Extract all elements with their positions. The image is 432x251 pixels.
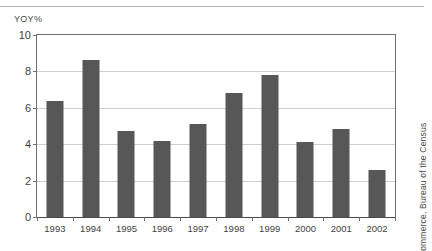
bar	[297, 142, 314, 217]
bar	[333, 129, 350, 217]
bar-slot: 2002	[359, 35, 395, 217]
bar	[46, 101, 63, 217]
y-axis-tick-label: 4	[25, 139, 31, 150]
x-axis-tick	[323, 217, 324, 221]
bar-slot: 1993	[37, 35, 73, 217]
x-axis-tick-label: 2001	[331, 224, 352, 234]
x-axis-tick	[37, 217, 38, 221]
x-axis-tick-label: 1993	[44, 224, 65, 234]
y-axis-tick-label: 2	[25, 175, 31, 186]
x-axis-tick	[288, 217, 289, 221]
x-axis-tick-label: 1996	[152, 224, 173, 234]
bar-slot: 2000	[288, 35, 324, 217]
bar	[369, 170, 386, 217]
source-note-text: Source: U.S. Department of Commerce, Bur…	[418, 123, 428, 251]
bar-slot: 1994	[73, 35, 109, 217]
bar-slot: 1998	[216, 35, 252, 217]
x-axis-tick	[395, 217, 396, 221]
bar-slot: 2001	[323, 35, 359, 217]
bar	[190, 124, 207, 217]
plot-area: 0246810 19931994199519961997199819992000…	[36, 34, 396, 218]
y-axis-tick-label: 6	[25, 102, 31, 113]
x-axis-tick-label: 2000	[295, 224, 316, 234]
y-axis-tick-label: 0	[25, 212, 31, 223]
x-axis-tick	[252, 217, 253, 221]
x-axis-tick	[216, 217, 217, 221]
x-axis-tick-label: 1997	[188, 224, 209, 234]
x-axis-tick	[73, 217, 74, 221]
top-divider-rule	[0, 6, 424, 7]
bar	[82, 60, 99, 217]
bar	[261, 75, 278, 217]
source-note: Source: U.S. Department of Commerce, Bur…	[416, 0, 430, 251]
x-axis-tick-label: 1999	[259, 224, 280, 234]
bar-series: 1993199419951996199719981999200020012002	[37, 35, 395, 217]
x-axis-tick-label: 1994	[80, 224, 101, 234]
bar-slot: 1997	[180, 35, 216, 217]
bar-slot: 1999	[252, 35, 288, 217]
bar-slot: 1995	[109, 35, 145, 217]
x-axis-tick	[144, 217, 145, 221]
x-axis-tick-label: 1998	[223, 224, 244, 234]
bar	[118, 131, 135, 217]
bar	[154, 141, 171, 217]
y-axis-title: YOY%	[14, 14, 42, 24]
y-axis-tick-label: 10	[19, 30, 31, 41]
bar	[225, 93, 242, 217]
y-axis-tick-label: 8	[25, 66, 31, 77]
x-axis-tick-label: 1995	[116, 224, 137, 234]
chart-figure: YOY% 0246810 199319941995199619971998199…	[0, 0, 432, 251]
x-axis-tick	[359, 217, 360, 221]
x-axis-tick	[109, 217, 110, 221]
bar-slot: 1996	[144, 35, 180, 217]
x-axis-tick	[180, 217, 181, 221]
x-axis-tick-label: 2002	[367, 224, 388, 234]
